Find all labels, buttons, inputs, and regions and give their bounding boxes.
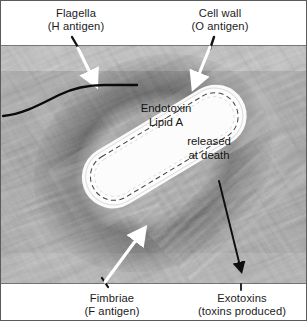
micrograph-figure: Flagella (H antigen) Cell wall (O antige…: [0, 0, 307, 321]
label-flagella-line1: Flagella: [15, 7, 137, 20]
label-exotoxins-line2: (toxins produced): [177, 305, 307, 318]
annotation-endotoxin-line1: Endotoxin: [141, 102, 192, 114]
label-cell-wall-line1: Cell wall: [159, 7, 281, 20]
photo-bottom-edge: [1, 283, 306, 284]
label-exotoxins-line1: Exotoxins: [177, 292, 307, 305]
annotation-released-at-death: released at death: [169, 134, 249, 163]
label-cell-wall: Cell wall (O antigen): [159, 7, 281, 34]
annotation-released-line2: at death: [188, 149, 229, 161]
label-fimbriae: Fimbriae (F antigen): [51, 292, 173, 319]
label-cell-wall-line2: (O antigen): [159, 20, 281, 33]
annotation-released-line1: released: [187, 135, 231, 147]
label-flagella-line2: (H antigen): [15, 20, 137, 33]
label-exotoxins: Exotoxins (toxins produced): [177, 292, 307, 319]
annotation-endotoxin-line2: Lipid A: [149, 116, 183, 128]
label-fimbriae-line1: Fimbriae: [51, 292, 173, 305]
label-flagella: Flagella (H antigen): [15, 7, 137, 34]
electron-micrograph-photo: [1, 45, 306, 284]
photo-top-edge: [1, 45, 306, 46]
annotation-endotoxin: Endotoxin Lipid A: [120, 101, 212, 130]
label-fimbriae-line2: (F antigen): [51, 305, 173, 318]
